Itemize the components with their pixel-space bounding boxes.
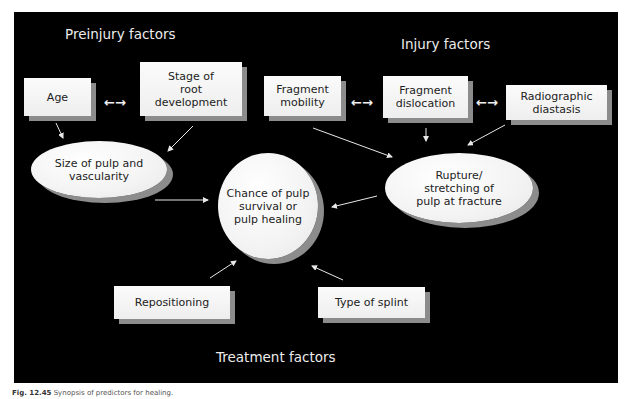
- node-radiographic-line1: Radiographic: [520, 90, 592, 103]
- node-chance-line3: pulp healing: [234, 213, 302, 226]
- node-size-line1: Size of pulp and: [55, 157, 143, 170]
- node-chance-line2: survival or: [239, 200, 297, 213]
- bidirectional-arrow-icon: ←→: [476, 96, 498, 109]
- node-stage-of-root-development: Stage of root development: [140, 62, 242, 116]
- node-fragment-mobility: Fragment mobility: [264, 76, 341, 116]
- node-radiographic-diastasis: Radiographic diastasis: [506, 85, 607, 120]
- node-frag-dislocation-line1: Fragment: [399, 84, 452, 97]
- node-chance-line1: Chance of pulp: [227, 187, 310, 200]
- node-stage-line3: development: [155, 96, 228, 109]
- node-age-label: Age: [47, 91, 68, 104]
- node-repositioning: Repositioning: [114, 286, 230, 319]
- figure-caption: Fig. 12.45 Synopsis of predictors for he…: [12, 389, 173, 397]
- node-age: Age: [24, 78, 91, 116]
- node-rupture-line2: stretching of: [424, 182, 494, 195]
- node-size-of-pulp-and-vascularity: Size of pulp and vascularity: [31, 141, 167, 198]
- node-rupture-stretching-of-pulp: Rupture/ stretching of pulp at fracture: [385, 153, 533, 223]
- node-rupture-line3: pulp at fracture: [416, 195, 502, 208]
- node-fragment-dislocation: Fragment dislocation: [383, 76, 468, 118]
- node-type-of-splint: Type of splint: [318, 287, 425, 318]
- node-frag-mobility-line1: Fragment: [276, 83, 329, 96]
- figure-caption-label: Fig. 12.45: [12, 389, 51, 397]
- node-splint-label: Type of splint: [335, 296, 408, 309]
- bidirectional-arrow-icon: ←→: [351, 96, 373, 109]
- injury-factors-label: Injury factors: [401, 36, 490, 52]
- bidirectional-arrow-icon: ←→: [104, 96, 126, 109]
- node-chance-of-pulp-survival: Chance of pulp survival or pulp healing: [218, 153, 318, 259]
- node-stage-line2: root: [180, 83, 202, 96]
- node-stage-line1: Stage of: [168, 70, 214, 83]
- node-radiographic-line2: diastasis: [532, 103, 580, 116]
- treatment-factors-label: Treatment factors: [216, 349, 336, 365]
- figure-caption-text: Synopsis of predictors for healing.: [54, 389, 174, 397]
- preinjury-factors-label: Preinjury factors: [65, 26, 176, 42]
- node-frag-mobility-line2: mobility: [280, 96, 324, 109]
- node-rupture-line1: Rupture/: [435, 169, 482, 182]
- node-size-line2: vascularity: [69, 170, 129, 183]
- node-frag-dislocation-line2: dislocation: [396, 97, 455, 110]
- node-repositioning-label: Repositioning: [135, 296, 210, 309]
